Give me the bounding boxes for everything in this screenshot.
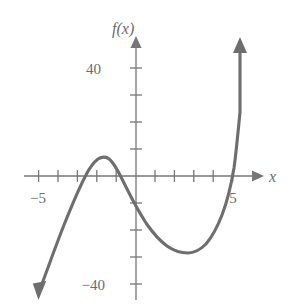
curve-arrow-up-icon [233, 37, 247, 53]
y-tick-label-40: 40 [86, 61, 101, 77]
x-axis-label: x [268, 168, 276, 185]
y-axis-label: f(x) [112, 20, 134, 38]
y-tick-label--40: −40 [82, 277, 105, 293]
x-axis-group [24, 170, 264, 182]
graph-canvas: f(x) x 40 −40 −5 5 [0, 0, 291, 306]
x-tick-label--5: −5 [30, 190, 46, 206]
function-curve [40, 50, 240, 289]
function-graph-figure: f(x) x 40 −40 −5 5 [0, 0, 291, 306]
curve-arrow-down-icon [33, 281, 46, 300]
x-axis-arrow-icon [252, 171, 264, 182]
x-tick-label-5: 5 [229, 190, 237, 206]
y-axis-group [130, 36, 142, 300]
function-curve-group [33, 37, 247, 300]
y-axis-arrow-icon [131, 36, 142, 48]
